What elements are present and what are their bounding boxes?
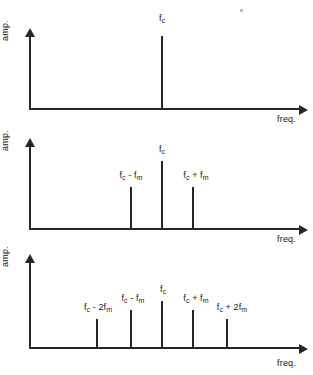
spectral-line-lower-sideband-1 [130, 310, 132, 347]
spectrum-panel-1: amp. freq. fc [0, 0, 313, 125]
y-axis-line [29, 262, 31, 347]
spectral-line-upper-sideband-2 [226, 319, 228, 347]
scan-artifact [240, 9, 243, 12]
x-axis-label: freq. [277, 358, 296, 368]
spectral-line-lower-sideband-1 [130, 187, 132, 228]
spectrum-panel-2: amp. freq. fc - fm fc fc + fm [0, 120, 313, 245]
spectral-line-label-lower-sideband-2: fc - 2fm [84, 302, 112, 312]
spectral-line-label-upper-sideband-2: fc + 2fm [217, 302, 247, 312]
x-axis-line [29, 108, 301, 110]
spectral-line-carrier [161, 161, 163, 228]
spectral-line-label-carrier: fc [160, 284, 166, 294]
spectrum-panel-3: amp. freq. fc - 2fm fc - fm fc fc + fm f… [0, 240, 313, 365]
spectral-line-label-upper-sideband-1: fc + fm [183, 293, 208, 303]
spectral-line-carrier [161, 301, 163, 347]
y-axis-line [29, 146, 31, 228]
y-axis-label: amp. [0, 130, 10, 151]
spectral-line-label-upper-sideband-1: fc + fm [183, 170, 208, 180]
spectral-line-upper-sideband-1 [192, 187, 194, 228]
x-axis-line [29, 347, 301, 349]
y-axis-line [29, 36, 31, 110]
x-axis-arrow-icon [299, 344, 308, 354]
x-axis-arrow-icon [299, 225, 308, 235]
spectral-line-lower-sideband-2 [96, 319, 98, 347]
spectral-line-label-carrier: fc [159, 13, 165, 23]
spectral-line-upper-sideband-1 [192, 310, 194, 347]
y-axis-label: amp. [0, 20, 10, 41]
spectral-line-label-lower-sideband-1: fc - fm [121, 293, 144, 303]
x-axis-line [29, 228, 301, 230]
y-axis-label: amp. [0, 246, 10, 267]
spectral-line-label-carrier: fc [159, 144, 165, 154]
spectral-line-label-lower-sideband-1: fc - fm [119, 170, 142, 180]
spectral-line-carrier [161, 36, 163, 108]
x-axis-arrow-icon [299, 105, 308, 115]
